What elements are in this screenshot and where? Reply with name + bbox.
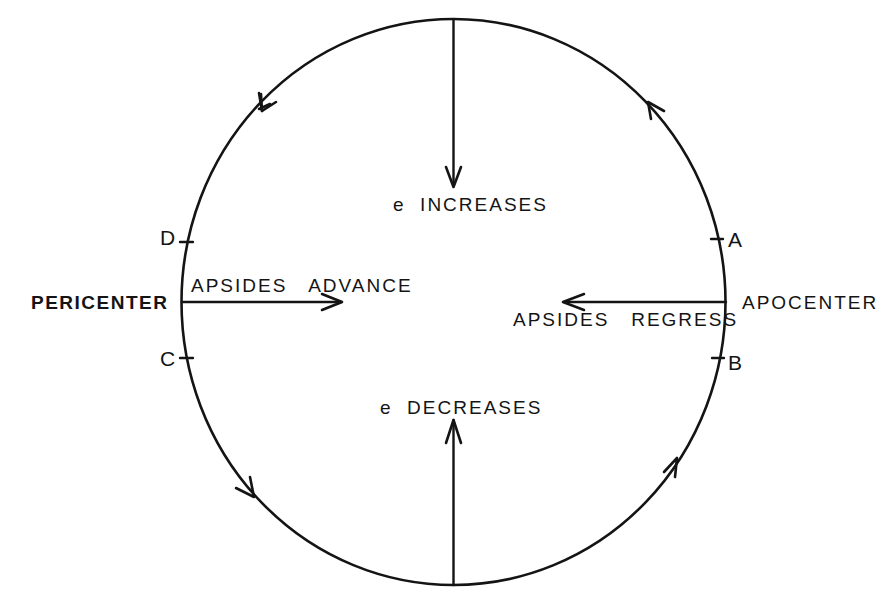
orbit-direction-arrow-icon (648, 102, 664, 119)
orbit-diagram: PERICENTER APOCENTER e INCREASES e DECRE… (0, 0, 894, 612)
apsides-advance-arrow (182, 294, 342, 310)
point-label-d: D (160, 226, 175, 249)
apsides-regress-label: APSIDES REGRESS (513, 309, 738, 330)
apsides-regress-arrow (563, 294, 726, 310)
apsides-advance-label: APSIDES ADVANCE (191, 275, 413, 296)
e-decreases-arrow (446, 420, 461, 585)
e-decreases-label: e DECREASES (380, 397, 542, 418)
apocenter-label: APOCENTER (742, 292, 878, 313)
point-label-c: C (160, 347, 175, 370)
point-label-b: B (728, 351, 742, 374)
e-increases-label: e INCREASES (393, 194, 548, 215)
e-increases-arrow (446, 20, 461, 187)
point-label-a: A (728, 228, 742, 251)
orbit-direction-arrow-icon (236, 477, 254, 497)
pericenter-label: PERICENTER (31, 292, 168, 313)
